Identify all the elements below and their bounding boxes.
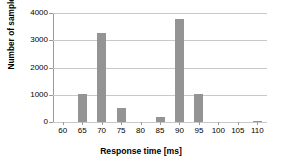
y-tick-mark-2000 xyxy=(49,68,53,69)
x-tick-mark-60 xyxy=(63,122,64,125)
y-axis-tick-labels: 01000200030004000 xyxy=(8,13,48,122)
x-tick-mark-110 xyxy=(257,122,258,125)
y-tick-label-0: 0 xyxy=(8,118,48,126)
x-tick-mark-100 xyxy=(218,122,219,125)
bar-90 xyxy=(175,19,184,122)
x-tick-mark-90 xyxy=(179,122,180,125)
y-tick-label-4000: 4000 xyxy=(8,9,48,17)
y-tick-label-2000: 2000 xyxy=(8,64,48,72)
x-tick-mark-75 xyxy=(121,122,122,125)
bar-70 xyxy=(97,33,106,122)
y-tick-mark-1000 xyxy=(49,95,53,96)
y-tick-label-1000: 1000 xyxy=(8,91,48,99)
gridline-4000 xyxy=(53,13,267,14)
y-tick-mark-4000 xyxy=(49,13,53,14)
histogram-chart: Number of samples 01000200030004000 6065… xyxy=(0,0,282,166)
x-tick-mark-85 xyxy=(160,122,161,125)
x-tick-label-110: 110 xyxy=(245,126,269,136)
gridline-3000 xyxy=(53,40,267,41)
x-tick-mark-80 xyxy=(141,122,142,125)
x-tick-mark-70 xyxy=(102,122,103,125)
x-tick-mark-95 xyxy=(199,122,200,125)
x-tick-mark-105 xyxy=(238,122,239,125)
gridline-2000 xyxy=(53,68,267,69)
bar-95 xyxy=(194,94,203,122)
y-tick-label-3000: 3000 xyxy=(8,36,48,44)
x-axis-title: Response time [ms] xyxy=(0,146,282,157)
x-tick-mark-65 xyxy=(82,122,83,125)
bar-65 xyxy=(78,94,87,122)
y-tick-mark-3000 xyxy=(49,40,53,41)
x-axis-tick-labels: 6065707580859095100105110 xyxy=(53,126,267,138)
bar-75 xyxy=(117,108,126,122)
y-tick-mark-0 xyxy=(49,122,53,123)
plot-area xyxy=(53,13,267,122)
